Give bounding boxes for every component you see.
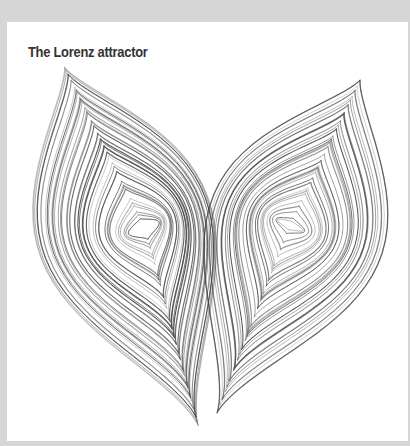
lorenz-attractor-plot bbox=[0, 0, 410, 446]
left-lobe bbox=[33, 67, 217, 426]
right-lobe bbox=[204, 80, 388, 414]
